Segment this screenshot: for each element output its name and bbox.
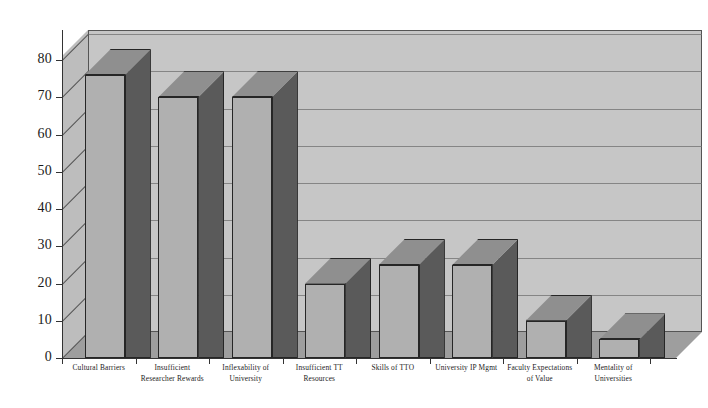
x-axis-labels: Cultural BarriersInsufficientResearcher … xyxy=(0,363,708,408)
bar xyxy=(232,71,298,358)
x-axis-tick-mark xyxy=(650,358,651,364)
x-axis-label: Mentality ofUniversities xyxy=(569,363,659,384)
bar-front-face xyxy=(232,97,272,358)
x-axis-tick-mark xyxy=(136,358,137,364)
x-axis-label-line: Resources xyxy=(275,374,365,385)
x-axis-tick-mark xyxy=(577,358,578,364)
bar-front-face xyxy=(599,339,639,358)
bar xyxy=(452,239,518,358)
x-axis-label-line: Mentality of xyxy=(569,363,659,374)
bar-chart: 01020304050607080 Cultural BarriersInsuf… xyxy=(0,0,708,408)
bar-side-face xyxy=(198,71,224,358)
x-axis-tick-mark xyxy=(209,358,210,364)
bar-front-face xyxy=(158,97,198,358)
bar xyxy=(85,49,151,358)
bar xyxy=(526,295,592,358)
bar-series xyxy=(0,0,708,408)
bar-side-face xyxy=(272,71,298,358)
x-axis-tick-mark xyxy=(62,358,63,364)
x-axis-tick-mark xyxy=(430,358,431,364)
bar xyxy=(158,71,224,358)
x-axis-tick-mark xyxy=(356,358,357,364)
bar-front-face xyxy=(526,321,566,358)
bar-front-face xyxy=(452,265,492,358)
x-axis-tick-mark xyxy=(283,358,284,364)
x-axis-tick-mark xyxy=(503,358,504,364)
bar xyxy=(599,313,665,358)
bar-side-face xyxy=(125,49,151,358)
x-axis-label-line: Universities xyxy=(569,374,659,385)
bar xyxy=(379,239,445,358)
bar xyxy=(305,258,371,359)
bar-front-face xyxy=(379,265,419,358)
bar-front-face xyxy=(85,75,125,358)
bar-front-face xyxy=(305,284,345,359)
